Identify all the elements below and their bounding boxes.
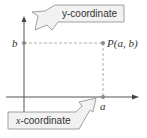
x-coordinate-text: x-coordinate bbox=[15, 115, 71, 126]
p-point bbox=[101, 41, 105, 45]
a-point bbox=[101, 95, 105, 99]
x-axis bbox=[6, 95, 139, 100]
y-coordinate-callout: y-coordinate bbox=[32, 5, 124, 30]
b-label: b bbox=[12, 37, 18, 49]
b-point bbox=[22, 41, 26, 45]
coordinate-diagram: b P(a, b) a y-coordinate x-coordinate bbox=[0, 0, 147, 138]
y-coordinate-text: y-coordinate bbox=[62, 8, 117, 19]
a-label: a bbox=[100, 100, 106, 112]
x-coordinate-callout: x-coordinate bbox=[8, 98, 96, 129]
point-label: P(a, b) bbox=[106, 37, 138, 50]
y-axis bbox=[22, 16, 27, 112]
